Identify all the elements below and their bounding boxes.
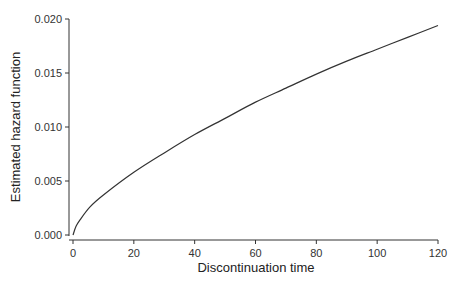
y-tick-label: 0.020 <box>34 13 62 25</box>
x-axis-title: Discontinuation time <box>197 260 314 275</box>
x-tick-label: 40 <box>189 247 201 259</box>
x-tick-label: 120 <box>429 247 447 259</box>
x-tick-label: 0 <box>70 247 76 259</box>
x-axis: 020406080100120 <box>69 240 447 259</box>
y-tick-label: 0.015 <box>34 67 62 79</box>
y-tick-label: 0.005 <box>34 175 62 187</box>
y-tick-label: 0.010 <box>34 121 62 133</box>
y-axis-title: Estimated hazard function <box>8 52 23 202</box>
hazard-curve <box>73 25 438 235</box>
x-tick-label: 20 <box>128 247 140 259</box>
y-axis: 0.0000.0050.0100.0150.020 <box>34 13 69 241</box>
x-tick-label: 100 <box>368 247 386 259</box>
x-tick-label: 60 <box>249 247 261 259</box>
hazard-chart: 0.0000.0050.0100.0150.020 02040608010012… <box>0 0 460 290</box>
x-tick-label: 80 <box>310 247 322 259</box>
y-tick-label: 0.000 <box>34 229 62 241</box>
